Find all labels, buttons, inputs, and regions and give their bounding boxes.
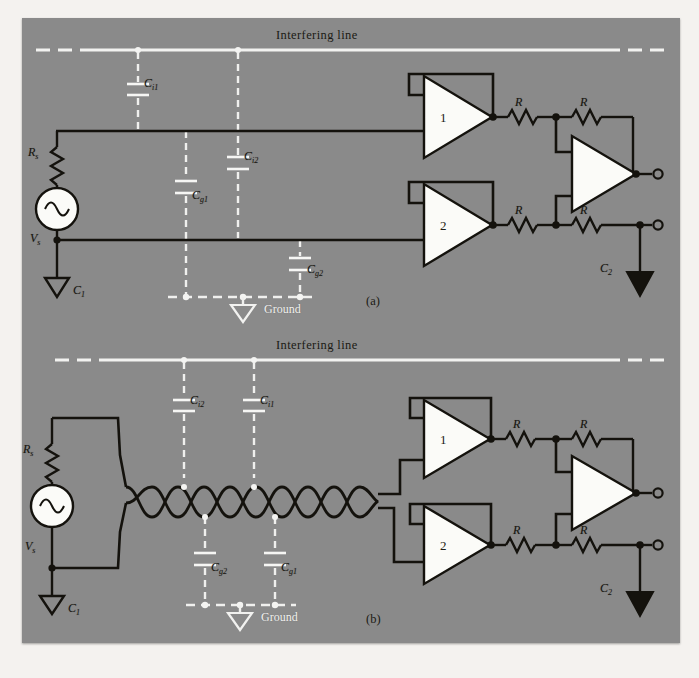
cap-cg1-b-label: Cg1 <box>281 561 297 576</box>
difference-amp-shape-b <box>572 456 636 530</box>
ground-label-b: Ground <box>261 611 298 623</box>
twisted-pair-lead-out-b <box>378 460 424 562</box>
output-terminal-bottom-b <box>653 540 662 549</box>
node-cable-tap-top-1 <box>181 484 187 490</box>
resistor-top-in-a <box>493 110 556 124</box>
node-gnd-b-1 <box>202 602 208 608</box>
cap-ci1-b-label: Ci1 <box>260 394 274 409</box>
difference-amp-shape-a <box>572 136 636 212</box>
twisted-pair-cable-b <box>126 487 378 517</box>
cap-ci2-b-label: Ci2 <box>190 394 204 409</box>
source-resistor-label-a: Rs <box>28 146 38 161</box>
buffer-amp-2-shape-a <box>424 184 492 266</box>
source-ground-symbol-a <box>45 278 69 297</box>
output-ground-c2-label-b: C2 <box>600 582 612 597</box>
cap-ci2-label: Ci2 <box>244 150 258 165</box>
output-terminal-top-b <box>653 488 662 497</box>
node-gnd-b-2 <box>272 602 278 608</box>
resistor-bottom-in-label-b: R <box>513 524 520 536</box>
ground-symbol-b <box>228 613 252 630</box>
figure-root: Interfering line Ci1 Ci2 Cg1 Cg2 Rs Vs C… <box>0 0 699 678</box>
node-cable-tap-top-2 <box>251 484 257 490</box>
cap-cg2-label: Cg2 <box>307 263 323 278</box>
buffer-amp-1-shape-b <box>424 400 490 478</box>
resistor-top-in-b <box>491 432 556 446</box>
output-ground-c2-symbol-b <box>627 592 653 616</box>
cap-cg2-b-label: Cg2 <box>211 561 227 576</box>
buffer-amp-1-shape-a <box>424 76 492 158</box>
panel-b-caption: (b) <box>366 612 381 627</box>
interfering-line-label-a: Interfering line <box>276 28 358 43</box>
cap-cg1-label: Cg1 <box>192 189 208 204</box>
buffer-amp-1-label-b: 1 <box>440 432 447 448</box>
resistor-bottom-in-b <box>491 538 556 552</box>
node-vs-a <box>53 236 60 243</box>
node-cable-tap-bot-1 <box>202 514 208 520</box>
interfering-line-label-b: Interfering line <box>276 338 358 353</box>
buffer-amp-2-label-b: 2 <box>440 538 447 554</box>
resistor-bottom-fb-b <box>556 538 640 552</box>
resistor-top-in-label-b: R <box>513 418 520 430</box>
output-ground-c2-symbol-a <box>627 272 653 296</box>
node-cable-tap-bot-2 <box>272 514 278 520</box>
node-gnd-a-2 <box>297 294 303 300</box>
resistor-top-in-label-a: R <box>515 96 522 108</box>
source-resistor-label-b: Rs <box>23 443 33 458</box>
source-voltage-label-a: Vs <box>30 232 40 247</box>
difference-amp-input-links-a <box>556 117 572 225</box>
output-terminal-top-a <box>653 169 662 178</box>
resistor-top-fb-label-b: R <box>580 418 587 430</box>
source-voltage-label-b: Vs <box>25 540 35 555</box>
resistor-bottom-in-label-a: R <box>515 204 522 216</box>
buffer-amp-2-shape-b <box>424 506 490 584</box>
resistor-bottom-fb-label-b: R <box>580 524 587 536</box>
resistor-bottom-fb-a <box>556 218 640 232</box>
source-ground-label-b: C1 <box>68 602 80 617</box>
resistor-bottom-in-a <box>493 218 556 232</box>
output-terminal-bottom-a <box>653 220 662 229</box>
source-ground-symbol-b <box>40 596 64 614</box>
difference-amp-input-links-b <box>556 439 572 545</box>
ground-symbol-a <box>231 305 255 322</box>
resistor-bottom-fb-label-a: R <box>580 204 587 216</box>
ground-label-a: Ground <box>264 303 301 315</box>
source-ground-label-a: C1 <box>73 284 85 299</box>
buffer-amp-1-label-a: 1 <box>440 110 447 126</box>
output-ground-c2-label-a: C2 <box>600 262 612 277</box>
buffer-amp-2-label-a: 2 <box>440 218 447 234</box>
panel-a-caption: (a) <box>366 294 380 309</box>
node-gnd-a-1 <box>183 294 189 300</box>
resistor-top-fb-label-a: R <box>580 96 587 108</box>
cap-ci1-label: Ci1 <box>144 77 158 92</box>
